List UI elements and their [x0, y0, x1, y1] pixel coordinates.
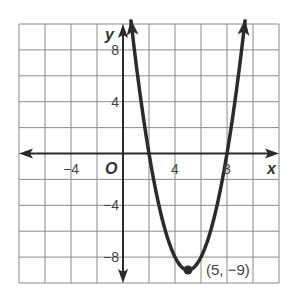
- curves: [127, 19, 250, 270]
- y-axis-label: y: [104, 26, 115, 43]
- y-tick-label: 4: [111, 94, 119, 110]
- x-axis-label: x: [266, 160, 277, 177]
- x-tick-label: 8: [223, 161, 231, 177]
- parabola-curve: [131, 19, 245, 270]
- origin-label: O: [105, 160, 118, 177]
- vertex-label: (5, −9): [206, 261, 250, 278]
- vertex-point: [184, 266, 193, 275]
- y-tick-label: −8: [103, 249, 119, 265]
- y-tick-label: 8: [111, 42, 119, 58]
- parabola-chart: x y O −44884−4−8 (5, −9): [0, 0, 302, 299]
- y-tick-label: −4: [103, 197, 119, 213]
- x-tick-label: −4: [63, 161, 79, 177]
- x-tick-label: 4: [171, 161, 179, 177]
